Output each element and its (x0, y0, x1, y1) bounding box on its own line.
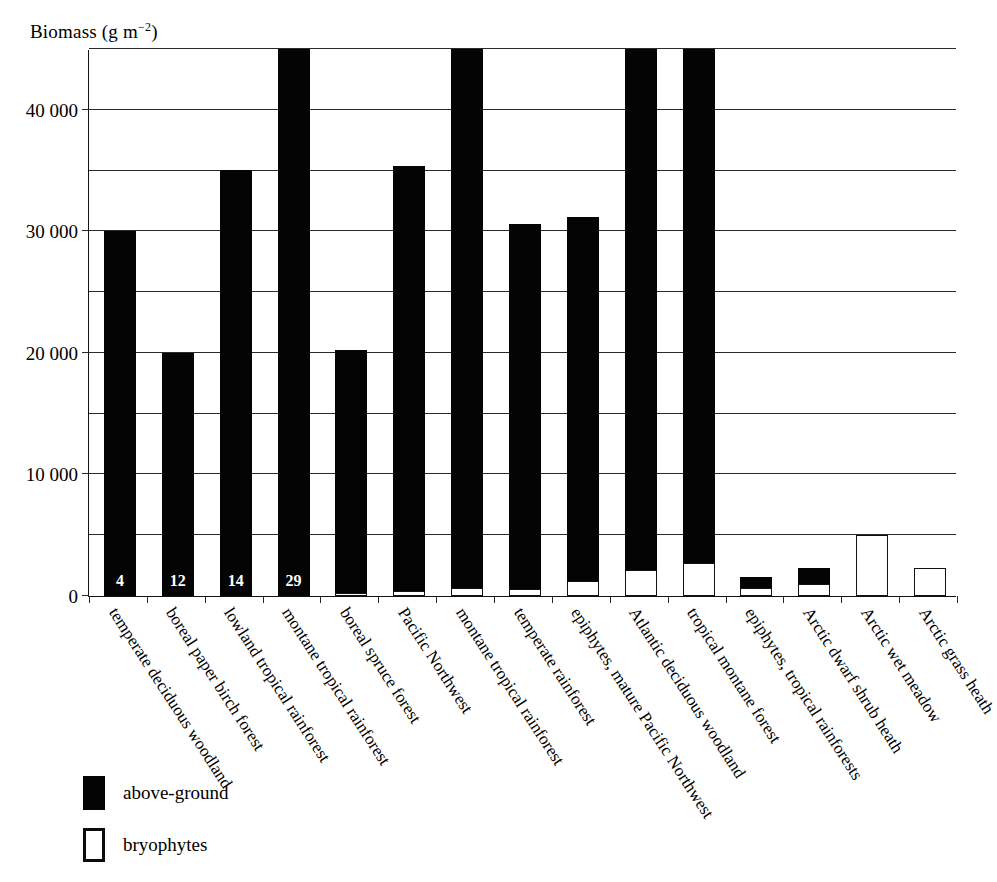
x-axis-tick (147, 596, 148, 603)
x-axis-tick (668, 596, 669, 603)
x-axis-tick (494, 596, 495, 603)
bar[interactable]: 14 (220, 170, 252, 596)
plot-area: 010 00020 00030 00040 000 4121429 (88, 50, 956, 597)
bar[interactable] (451, 49, 483, 596)
bar-segment-bryophytes (335, 593, 367, 596)
x-axis-category-label: epiphytes, mature Pacific Northwest (567, 604, 719, 822)
x-axis-tick (436, 596, 437, 603)
x-axis-category-label: temperate rainforest (509, 604, 600, 729)
bar-segment-above-ground (104, 231, 136, 596)
y-axis-tick (82, 352, 89, 353)
bar[interactable]: 12 (162, 353, 194, 596)
x-axis-category-label: temperate deciduous woodland (104, 604, 236, 792)
x-axis-category-label: Arctic dwarf shrub heath (798, 604, 907, 757)
bar-segment-bryophytes (740, 588, 772, 597)
bar-segment-bryophytes (798, 584, 830, 596)
bar-segment-bryophytes (567, 581, 599, 596)
bar[interactable] (740, 577, 772, 596)
bar-segment-bryophytes (509, 589, 541, 596)
bar-value-label: 12 (162, 572, 194, 590)
bar[interactable] (683, 49, 715, 596)
legend-item: bryophytes (83, 828, 229, 862)
bar-segment-above-ground (567, 217, 599, 596)
bar[interactable] (509, 224, 541, 596)
y-axis-title-close: ) (151, 21, 158, 42)
bar-segment-bryophytes (914, 568, 946, 596)
y-axis-tick-label: 40 000 (26, 100, 78, 122)
x-axis-category-label: boreal paper birch forest (162, 604, 270, 755)
x-axis-category-label: Arctic grass heath (914, 604, 997, 718)
x-axis-tick (552, 596, 553, 603)
bar-segment-bryophytes (625, 570, 657, 596)
bar[interactable]: 29 (278, 49, 310, 596)
x-axis-tick (263, 596, 264, 603)
bar-segment-above-ground (278, 49, 310, 596)
x-axis-tick (783, 596, 784, 603)
bar-segment-above-ground (625, 49, 657, 596)
y-axis-title-text: Biomass (g m (30, 21, 138, 42)
legend-swatch-bryophytes (83, 828, 105, 862)
x-axis-tick (320, 596, 321, 603)
bar[interactable] (567, 217, 599, 596)
bar-segment-above-ground (393, 166, 425, 596)
bar[interactable] (798, 568, 830, 596)
y-axis-tick-label: 10 000 (26, 464, 78, 486)
x-axis-category-label: Pacific Northwest (393, 604, 476, 717)
legend-item: above-ground (83, 776, 229, 810)
y-axis-tick-label: 30 000 (26, 221, 78, 243)
x-axis-category-label: epiphytes, tropical rainforests (740, 604, 867, 784)
y-axis-tick-label: 0 (69, 586, 79, 608)
bar[interactable] (856, 535, 888, 596)
x-axis-tick (610, 596, 611, 603)
y-axis-tick (82, 109, 89, 110)
y-axis-tick (82, 473, 89, 474)
gridline (89, 109, 956, 110)
bar[interactable] (625, 49, 657, 596)
bar-segment-above-ground (451, 49, 483, 596)
y-axis-tick (82, 230, 89, 231)
legend-swatch-above-ground (83, 776, 105, 810)
x-axis-category-label: Arctic wet meadow (856, 604, 945, 727)
x-axis-tick (899, 596, 900, 603)
x-axis-category-label: montane tropical rainforest (277, 604, 394, 769)
legend: above-ground bryophytes (83, 776, 229, 880)
x-axis-tick (726, 596, 727, 603)
y-axis-title-exponent: −2 (138, 20, 151, 34)
bar-segment-bryophytes (683, 563, 715, 596)
x-axis-category-label: lowland tropical rainforest (219, 604, 334, 766)
y-axis-title: Biomass (g m−2) (30, 20, 158, 43)
x-axis-tick (89, 596, 90, 603)
x-axis-tick (957, 596, 958, 603)
bar-segment-above-ground (162, 353, 194, 596)
gridline (89, 48, 956, 49)
bar-segment-bryophytes (393, 591, 425, 596)
bar[interactable] (335, 350, 367, 596)
bar-value-label: 14 (220, 572, 252, 590)
x-axis-tick (205, 596, 206, 603)
bar-segment-above-ground (683, 49, 715, 596)
legend-label-above-ground: above-ground (123, 782, 229, 804)
bar[interactable] (914, 568, 946, 596)
y-axis-tick-label: 20 000 (26, 343, 78, 365)
x-axis-category-label: montane tropical rainforest (451, 604, 568, 769)
bar-segment-bryophytes (451, 588, 483, 597)
legend-label-bryophytes: bryophytes (123, 834, 207, 856)
x-axis-category-label: tropical montane forest (682, 604, 785, 747)
bar-segment-above-ground (335, 350, 367, 596)
bar[interactable]: 4 (104, 231, 136, 596)
bar-value-label: 29 (278, 572, 310, 590)
bar-segment-above-ground (220, 170, 252, 596)
bar-segment-above-ground (509, 224, 541, 596)
bar-segment-bryophytes (856, 535, 888, 596)
x-axis-tick (378, 596, 379, 603)
bar[interactable] (393, 166, 425, 596)
bar-value-label: 4 (104, 572, 136, 590)
x-axis-category-label: Atlantic deciduous woodland (625, 604, 750, 782)
x-axis-tick (841, 596, 842, 603)
x-axis-category-label: boreal spruce forest (335, 604, 425, 727)
y-axis-tick (82, 595, 89, 596)
